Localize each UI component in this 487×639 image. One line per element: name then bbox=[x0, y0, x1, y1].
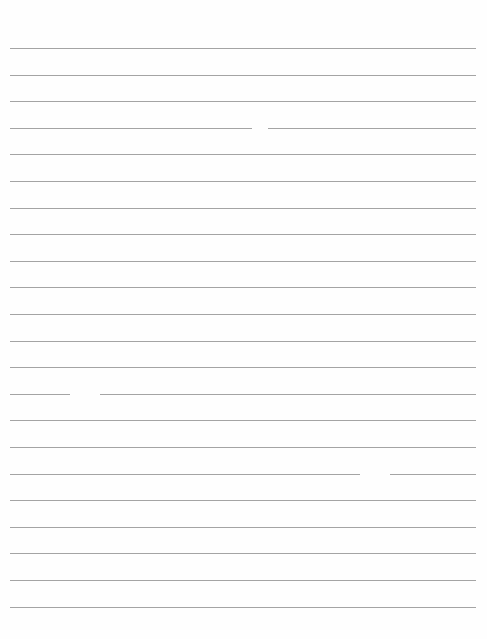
ruled-line bbox=[10, 287, 476, 288]
ruled-line bbox=[10, 48, 476, 49]
ruled-line bbox=[10, 420, 476, 421]
ruled-line bbox=[10, 181, 476, 182]
ruled-line bbox=[10, 607, 476, 608]
ruled-line bbox=[10, 314, 476, 315]
ruled-line bbox=[10, 553, 476, 554]
ruled-line bbox=[10, 447, 476, 448]
ruled-line bbox=[10, 261, 476, 262]
ruled-line bbox=[10, 367, 476, 368]
ruled-line bbox=[10, 500, 476, 501]
ruled-line bbox=[10, 234, 476, 235]
ruled-line bbox=[10, 101, 476, 102]
ruled-line bbox=[10, 128, 476, 129]
lined-paper-sheet bbox=[0, 0, 487, 639]
ruled-line bbox=[10, 341, 476, 342]
ruled-line bbox=[10, 75, 476, 76]
ruled-line bbox=[10, 394, 476, 395]
ruled-line bbox=[10, 527, 476, 528]
ruled-line bbox=[10, 208, 476, 209]
ruled-line bbox=[10, 154, 476, 155]
ruled-line bbox=[10, 474, 476, 475]
ruled-line bbox=[10, 580, 476, 581]
